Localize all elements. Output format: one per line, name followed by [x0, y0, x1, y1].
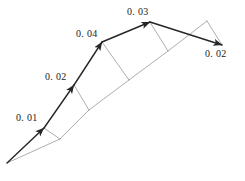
connector-segment-1 [44, 128, 60, 139]
baseline-segment-2 [60, 110, 89, 139]
connector-segment-3 [102, 42, 129, 80]
vector-arrow-1 [7, 128, 44, 163]
vector-value-label-5: 0. 02 [205, 49, 227, 59]
baseline-segment-4 [129, 51, 168, 80]
vector-arrow-3 [74, 42, 102, 85]
vector-diagram-svg [0, 0, 245, 181]
vector-diagram-canvas: 0. 010. 020. 040. 030. 02 [0, 0, 245, 181]
vector-arrow-5 [150, 22, 222, 45]
baseline-segment-3 [89, 80, 129, 110]
vector-arrow-4 [102, 22, 150, 42]
vector-value-label-2: 0. 02 [45, 72, 67, 82]
main-vector-chain-group [7, 22, 222, 163]
baseline-segment-1 [7, 139, 60, 163]
vector-value-label-3: 0. 04 [76, 29, 98, 39]
vector-value-label-1: 0. 01 [16, 113, 38, 123]
baseline-segment-5 [168, 21, 207, 51]
vector-value-label-4: 0. 03 [127, 7, 149, 17]
connector-segment-2 [74, 85, 89, 110]
auxiliary-connector-group [44, 21, 222, 139]
vector-arrow-2 [44, 85, 74, 128]
auxiliary-baseline-group [7, 21, 207, 163]
